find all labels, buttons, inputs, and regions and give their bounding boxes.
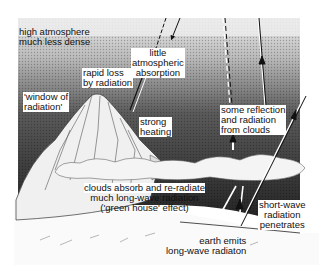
label-line: by radiation [83,78,132,88]
label-earth-emits: earth emits long-wave radiaton [166,236,246,256]
label-short-wave: short-wave radiation penetrates [258,200,306,230]
label-clouds-absorb: clouds absorb and re-radiate much long-w… [84,183,205,213]
label-window-of-radiation: 'window of radiation' [23,92,69,112]
label-strong-heating: strong heating [139,117,172,137]
label-little-absorption: little atmospheric absorption [131,48,185,78]
label-rapid-loss: rapid loss by radiation [82,68,133,88]
label-line: absorption [132,68,184,78]
label-line: penetrates [259,220,305,230]
label-line: from clouds [221,125,285,135]
label-line: radiation' [24,102,68,112]
label-line: long-wave radiaton [166,246,246,256]
label-line: heating [140,127,171,137]
label-line: much less dense [19,37,90,47]
label-reflection-from-clouds: some reflection and radiation from cloud… [220,105,286,135]
label-line: ('green house' effect) [84,203,205,213]
label-high-atmosphere: high atmosphere much less dense [19,27,90,47]
